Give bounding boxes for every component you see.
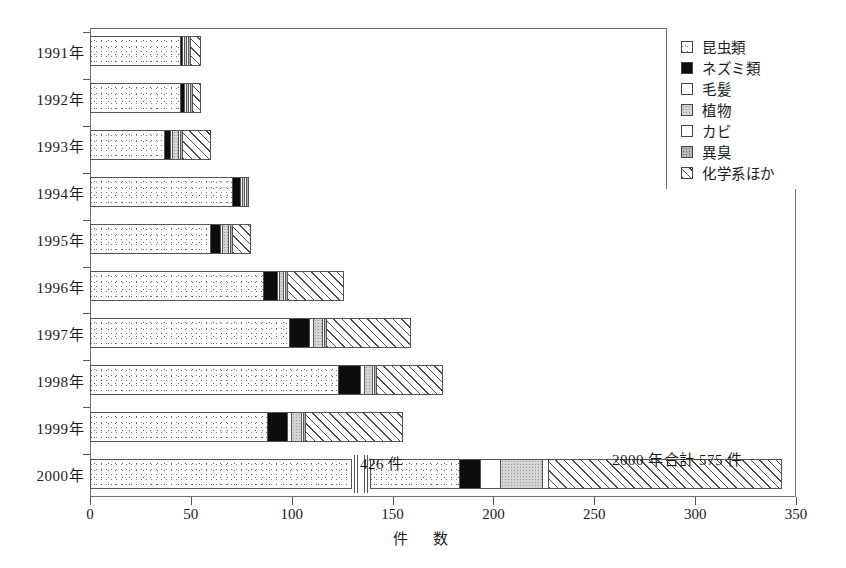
legend-label: 毛髪 xyxy=(702,78,731,99)
bar-segment-昆虫類 xyxy=(91,225,210,253)
y-axis-label-1998: 1998年 xyxy=(22,370,84,391)
bar-segment-昆虫類 xyxy=(91,84,180,112)
bar-segment-化学系ほか xyxy=(182,131,210,159)
y-axis-tick xyxy=(83,313,90,314)
y-axis-tick xyxy=(83,126,90,127)
legend-item-化学系ほか: 化学系ほか xyxy=(681,162,796,183)
bar-segment-ネズミ類 xyxy=(263,272,277,300)
bar-segment-昆虫類 xyxy=(91,413,267,441)
annotation-total-2000: 2000 年合計 575 件 xyxy=(612,448,743,469)
y-axis-tick xyxy=(83,173,90,174)
x-axis-tick-label-250: 250 xyxy=(569,506,619,523)
legend-label: 化学系ほか xyxy=(702,162,775,183)
bar-segment-ネズミ類 xyxy=(267,413,287,441)
x-axis-tick-label-150: 150 xyxy=(368,506,418,523)
y-axis-label-1992: 1992年 xyxy=(22,88,84,109)
y-axis-tick xyxy=(83,32,90,33)
x-axis-tick-label-50: 50 xyxy=(166,506,216,523)
legend-item-ネズミ類: ネズミ類 xyxy=(681,57,796,78)
bar-1997 xyxy=(90,318,411,348)
bar-1999 xyxy=(90,412,403,442)
bar-segment-化学系ほか xyxy=(192,84,200,112)
x-axis-tick xyxy=(594,497,595,505)
x-axis-tick-label-300: 300 xyxy=(670,506,720,523)
x-axis-tick xyxy=(695,497,696,505)
white-swatch xyxy=(681,83,693,95)
x-axis-tick xyxy=(493,497,494,505)
legend-item-カビ: カビ xyxy=(681,120,796,141)
solid-black-swatch xyxy=(681,62,693,74)
y-axis-tick xyxy=(83,454,90,455)
bar-segment-化学系ほか xyxy=(287,272,343,300)
x-axis-tick-label-200: 200 xyxy=(468,506,518,523)
legend-label: 異臭 xyxy=(702,141,731,162)
bar-segment-昆虫類 xyxy=(91,460,351,488)
bar-segment-ネズミ類 xyxy=(459,460,481,488)
bar-segment-化学系ほか xyxy=(190,37,200,65)
light-gray-swatch xyxy=(681,104,693,116)
stacked-bar-chart: 1991年1992年1993年1994年1995年1996年1997年1998年… xyxy=(0,0,846,568)
bar-segment-昆虫類 xyxy=(91,178,232,206)
x-axis-title: 件 数 xyxy=(0,527,846,548)
bar-segment-植物 xyxy=(291,413,301,441)
x-axis-tick-label-100: 100 xyxy=(267,506,317,523)
legend-item-昆虫類: 昆虫類 xyxy=(681,36,796,57)
y-axis-label-1999: 1999年 xyxy=(22,417,84,438)
y-axis-label-1993: 1993年 xyxy=(22,135,84,156)
y-axis-tick xyxy=(83,79,90,80)
x-axis-tick xyxy=(796,497,797,505)
white-swatch xyxy=(681,125,693,137)
legend-label: 植物 xyxy=(702,99,731,120)
dotted-light-swatch xyxy=(681,41,693,53)
x-axis-tick-label-0: 0 xyxy=(65,506,115,523)
bar-segment-異臭 xyxy=(246,178,248,206)
bar-segment-化学系ほか xyxy=(232,225,250,253)
legend-item-毛髪: 毛髪 xyxy=(681,78,796,99)
bar-2000-left-stub xyxy=(90,459,352,489)
bar-1993 xyxy=(90,130,211,160)
bar-segment-植物 xyxy=(500,460,542,488)
y-axis-tick xyxy=(83,220,90,221)
bar-segment-植物 xyxy=(364,366,372,394)
legend: 昆虫類ネズミ類毛髪植物カビ異臭化学系ほか xyxy=(666,28,796,189)
annotation-insects-2000: 426 件 xyxy=(360,452,404,473)
diagonal-hatch-swatch xyxy=(681,167,693,179)
x-axis-tick xyxy=(191,497,192,505)
bar-segment-昆虫類 xyxy=(91,272,263,300)
bar-1998 xyxy=(90,365,443,395)
bar-segment-昆虫類 xyxy=(91,131,164,159)
dark-gray-dotted-swatch xyxy=(681,146,693,158)
y-axis-label-1994: 1994年 xyxy=(22,182,84,203)
x-axis-tick xyxy=(90,497,91,505)
bar-1996 xyxy=(90,271,344,301)
x-axis-tick xyxy=(393,497,394,505)
legend-label: カビ xyxy=(702,120,731,141)
y-axis-label-1997: 1997年 xyxy=(22,323,84,344)
bar-segment-化学系ほか xyxy=(376,366,442,394)
bar-segment-毛髪 xyxy=(480,460,500,488)
y-axis-label-1991: 1991年 xyxy=(22,41,84,62)
axis-break-mark-1 xyxy=(354,455,358,493)
bar-segment-化学系ほか xyxy=(305,413,401,441)
y-axis-label-2000: 2000年 xyxy=(22,464,84,485)
legend-item-植物: 植物 xyxy=(681,99,796,120)
y-axis-tick xyxy=(83,267,90,268)
bar-1992 xyxy=(90,83,201,113)
bar-segment-昆虫類 xyxy=(91,319,289,347)
x-axis-tick xyxy=(292,497,293,505)
legend-label: 昆虫類 xyxy=(702,36,746,57)
bar-segment-昆虫類 xyxy=(91,366,338,394)
bar-segment-ネズミ類 xyxy=(338,366,360,394)
bar-1995 xyxy=(90,224,251,254)
bar-segment-ネズミ類 xyxy=(210,225,220,253)
y-axis-tick xyxy=(83,407,90,408)
bar-1991 xyxy=(90,36,201,66)
bar-1994 xyxy=(90,177,249,207)
legend-item-異臭: 異臭 xyxy=(681,141,796,162)
bar-segment-化学系ほか xyxy=(326,319,410,347)
bar-segment-昆虫類 xyxy=(91,37,180,65)
y-axis-label-1995: 1995年 xyxy=(22,229,84,250)
bar-segment-植物 xyxy=(313,319,321,347)
x-axis-tick-label-350: 350 xyxy=(771,506,821,523)
legend-label: ネズミ類 xyxy=(702,57,760,78)
